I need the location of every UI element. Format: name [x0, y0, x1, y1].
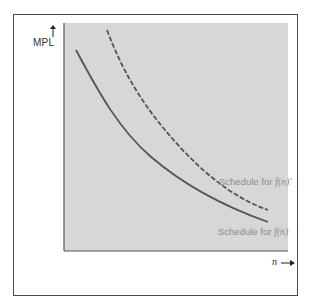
x-axis-arrow-icon [280, 259, 296, 267]
x-axis-label-text: n [272, 256, 277, 267]
label-f-n-fn: f(n) [274, 226, 288, 237]
y-axis-arrow-icon [48, 25, 58, 37]
label-f-n: Schedule for f(n) [218, 226, 288, 237]
label-f-n-prefix: Schedule for [218, 226, 274, 237]
x-axis-label: n [272, 256, 296, 267]
label-f-n-prime-fn: f(n)' [275, 176, 292, 187]
label-f-n-prime-prefix: Schedule for [219, 176, 275, 187]
y-axis-label: MPL [33, 37, 54, 48]
label-f-n-prime: Schedule for f(n)' [219, 176, 292, 187]
